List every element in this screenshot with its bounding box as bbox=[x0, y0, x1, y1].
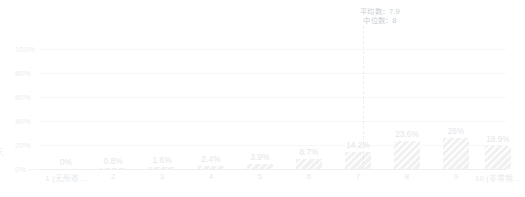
gridline bbox=[40, 49, 506, 50]
plot-area: 0%0.8%1.6%2.4%3.9%8.7%14.2%23.6%26%18.9% bbox=[40, 49, 506, 169]
gridline bbox=[40, 73, 506, 74]
mean-label: 平均数：7.9 bbox=[332, 7, 428, 16]
statistics-annotation: 平均数：7.9 中位数：8 bbox=[332, 7, 428, 25]
y-axis-tick: 100% bbox=[15, 45, 35, 54]
bar[interactable] bbox=[443, 138, 469, 169]
y-axis-tick: 60% bbox=[15, 93, 31, 102]
gridline bbox=[40, 97, 506, 98]
y-axis-tick: 40% bbox=[15, 117, 31, 126]
x-axis-tick: 10 (非常频… bbox=[462, 172, 525, 183]
bar[interactable] bbox=[345, 152, 371, 169]
y-axis-tick: 80% bbox=[15, 69, 31, 78]
y-axis-tick: 20% bbox=[15, 141, 31, 150]
bar[interactable] bbox=[394, 141, 420, 169]
bar-value-label: 18.9% bbox=[468, 135, 525, 144]
gridline bbox=[40, 121, 506, 122]
bar[interactable] bbox=[296, 159, 322, 169]
x-axis-line bbox=[28, 169, 506, 170]
bar-value-label: 14.2% bbox=[328, 141, 388, 150]
median-marker-line bbox=[363, 26, 364, 169]
bar[interactable] bbox=[485, 146, 511, 169]
y-axis: 100%80%60%40%20%0% bbox=[0, 49, 40, 169]
gridline bbox=[40, 145, 506, 146]
x-axis: 1 (无所收…2345678910 (非常频… bbox=[0, 172, 506, 188]
median-label: 中位数：8 bbox=[332, 16, 428, 25]
